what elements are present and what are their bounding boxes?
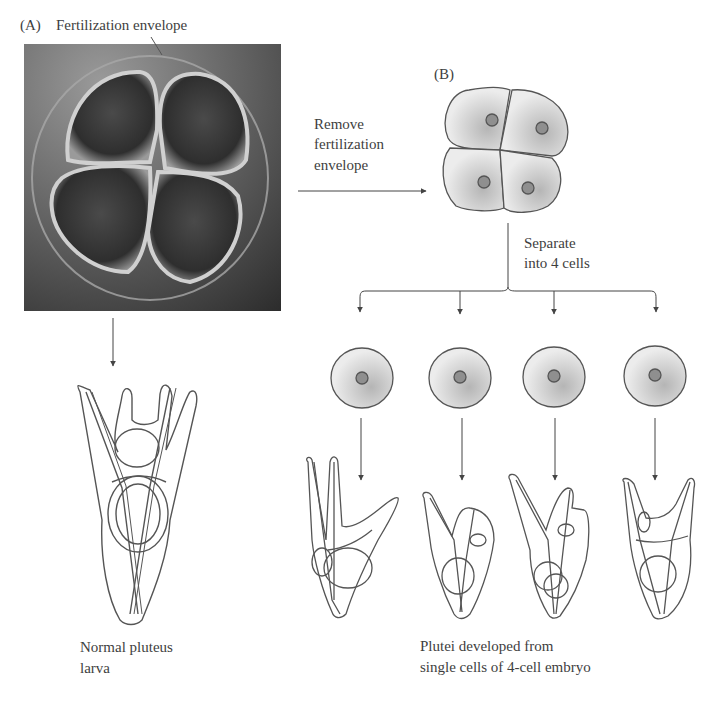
separated-cells	[331, 346, 686, 408]
normal-larva-label-line1: Normal pluteus	[80, 638, 173, 656]
remove-envelope-line2: fertilization	[314, 135, 384, 153]
single-cell-4	[624, 346, 686, 406]
single-cell-1	[331, 348, 393, 408]
four-cell-embryo-drawing	[443, 87, 568, 212]
plutei-result-line1: Plutei developed from	[420, 637, 553, 655]
remove-envelope-line1: Remove	[314, 115, 364, 133]
single-cell-3	[523, 347, 585, 407]
panel-b-tag: (B)	[434, 65, 454, 83]
diagram-canvas	[0, 0, 710, 703]
separation-branch	[360, 223, 656, 314]
plutei-result-line2: single cells of 4-cell embryo	[420, 658, 591, 676]
pluteus-2	[423, 492, 494, 618]
remove-envelope-line3: envelope	[314, 156, 368, 174]
pluteus-3	[509, 474, 589, 618]
normal-larva-label-line2: larva	[80, 659, 110, 677]
embryo-micrograph	[24, 37, 281, 311]
fertilization-envelope-caption: Fertilization envelope	[56, 16, 187, 34]
panel-a-tag: (A)	[20, 16, 41, 34]
arrows-to-plutei	[361, 418, 655, 480]
pluteus-1	[307, 457, 399, 618]
separate-cells-line2: into 4 cells	[524, 254, 590, 272]
separate-cells-line1: Separate	[524, 234, 576, 252]
single-cell-2	[429, 348, 491, 408]
normal-pluteus-larva	[78, 385, 197, 624]
pluteus-4	[623, 478, 695, 618]
